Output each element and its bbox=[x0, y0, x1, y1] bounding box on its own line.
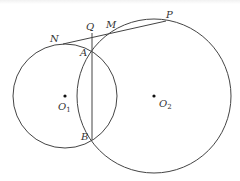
label-a: A bbox=[79, 47, 87, 58]
center-dot-o2 bbox=[152, 94, 155, 97]
geometry-figure: N Q M P A B O1 O2 bbox=[0, 0, 240, 181]
label-q: Q bbox=[86, 21, 94, 32]
label-o1: O1 bbox=[58, 101, 71, 114]
diagram-canvas: N Q M P A B O1 O2 bbox=[0, 0, 240, 181]
label-p: P bbox=[165, 9, 173, 20]
label-b: B bbox=[80, 131, 88, 142]
label-o2: O2 bbox=[159, 98, 172, 111]
label-n: N bbox=[49, 33, 60, 44]
cropped-text-strip bbox=[0, 0, 240, 4]
label-m: M bbox=[105, 19, 117, 30]
center-dot-o1 bbox=[63, 94, 66, 97]
